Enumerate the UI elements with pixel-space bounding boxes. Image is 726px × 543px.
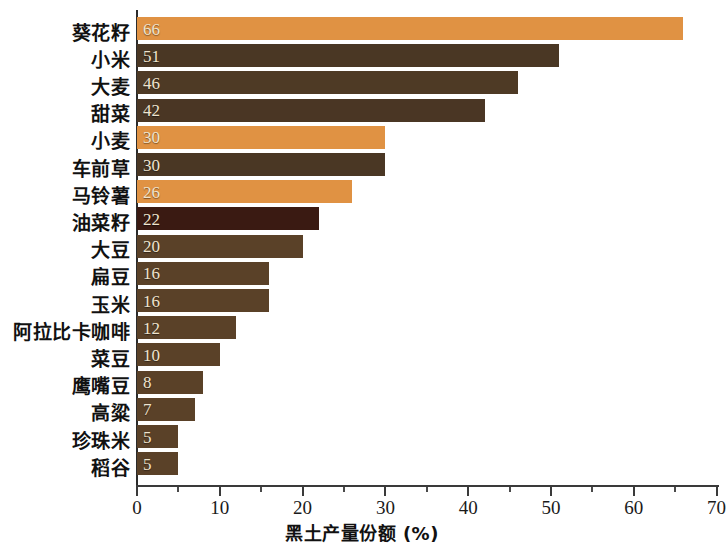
x-tick-major bbox=[384, 487, 386, 496]
x-tick-major bbox=[633, 487, 635, 496]
category-label: 油菜籽 bbox=[0, 208, 130, 235]
x-tick-label: 40 bbox=[459, 497, 478, 519]
bar-value-label: 46 bbox=[143, 74, 160, 91]
bar: 16 bbox=[137, 289, 269, 312]
x-tick-minor bbox=[177, 487, 179, 492]
bar: 22 bbox=[137, 207, 319, 230]
bar: 42 bbox=[137, 99, 485, 122]
bar-value-label: 12 bbox=[143, 319, 160, 336]
category-label: 小米 bbox=[0, 45, 130, 72]
bar-value-label: 30 bbox=[143, 156, 160, 173]
bar: 16 bbox=[137, 262, 269, 285]
x-axis-title: 黑土产量份额 (%) bbox=[0, 519, 724, 543]
category-label: 扁豆 bbox=[0, 262, 130, 289]
bar: 5 bbox=[137, 452, 178, 475]
bar: 8 bbox=[137, 371, 203, 394]
x-tick-label: 70 bbox=[707, 497, 726, 519]
category-label: 玉米 bbox=[0, 290, 130, 317]
x-tick-label: 60 bbox=[624, 497, 643, 519]
category-label: 马铃薯 bbox=[0, 181, 130, 208]
x-tick-label: 0 bbox=[132, 497, 142, 519]
bar-value-label: 5 bbox=[143, 455, 152, 472]
bar-value-label: 51 bbox=[143, 47, 160, 64]
x-tick-label: 50 bbox=[542, 497, 561, 519]
bar: 20 bbox=[137, 235, 303, 258]
bar: 46 bbox=[137, 71, 518, 94]
bar-value-label: 26 bbox=[143, 183, 160, 200]
bar: 12 bbox=[137, 316, 236, 339]
bar-value-label: 16 bbox=[143, 265, 160, 282]
category-label: 菜豆 bbox=[0, 344, 130, 371]
bar-value-label: 20 bbox=[143, 238, 160, 255]
x-tick-minor bbox=[509, 487, 511, 492]
category-label: 葵花籽 bbox=[0, 18, 130, 45]
category-label: 高粱 bbox=[0, 398, 130, 425]
bar: 26 bbox=[137, 180, 352, 203]
bar-value-label: 8 bbox=[143, 374, 152, 391]
bar: 51 bbox=[137, 44, 559, 67]
category-label: 大麦 bbox=[0, 72, 130, 99]
category-label: 阿拉比卡咖啡 bbox=[0, 317, 130, 344]
bar-value-label: 22 bbox=[143, 210, 160, 227]
x-tick-major bbox=[219, 487, 221, 496]
x-tick-minor bbox=[343, 487, 345, 492]
x-tick-minor bbox=[260, 487, 262, 492]
category-label: 小麦 bbox=[0, 126, 130, 153]
x-tick-minor bbox=[674, 487, 676, 492]
x-tick-minor bbox=[591, 487, 593, 492]
bar: 30 bbox=[137, 126, 385, 149]
x-tick-major bbox=[136, 487, 138, 496]
bar: 10 bbox=[137, 343, 220, 366]
bar-value-label: 16 bbox=[143, 292, 160, 309]
bar: 7 bbox=[137, 398, 195, 421]
x-tick-label: 10 bbox=[210, 497, 229, 519]
x-tick-minor bbox=[426, 487, 428, 492]
category-label: 车前草 bbox=[0, 154, 130, 181]
bar-value-label: 7 bbox=[143, 401, 152, 418]
x-tick-major bbox=[302, 487, 304, 496]
x-tick-label: 20 bbox=[293, 497, 312, 519]
x-tick-major bbox=[467, 487, 469, 496]
bar-value-label: 30 bbox=[143, 129, 160, 146]
category-label: 珍珠米 bbox=[0, 426, 130, 453]
category-label: 大豆 bbox=[0, 235, 130, 262]
bar-value-label: 42 bbox=[143, 102, 160, 119]
x-tick-major bbox=[716, 487, 718, 496]
category-label: 鹰嘴豆 bbox=[0, 371, 130, 398]
x-tick-label: 30 bbox=[376, 497, 395, 519]
bar: 30 bbox=[137, 153, 385, 176]
bar-value-label: 66 bbox=[143, 20, 160, 37]
x-tick-major bbox=[550, 487, 552, 496]
bar-value-label: 10 bbox=[143, 346, 160, 363]
category-label: 甜菜 bbox=[0, 99, 130, 126]
bar: 66 bbox=[137, 17, 683, 40]
bar-value-label: 5 bbox=[143, 428, 152, 445]
bar: 5 bbox=[137, 425, 178, 448]
category-label: 稻谷 bbox=[0, 453, 130, 480]
